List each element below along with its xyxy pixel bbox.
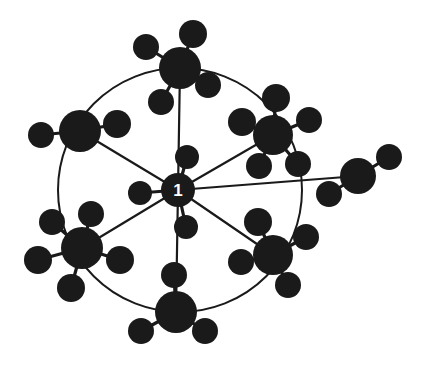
hub-node-hub-upper-right[interactable] <box>253 115 293 155</box>
network-diagram: 1 <box>0 0 426 375</box>
satellite-node-sat-lr-1[interactable] <box>244 208 272 236</box>
satellite-node-sat-lr-3[interactable] <box>228 249 254 275</box>
hub-node-hub-lower-left[interactable] <box>61 227 103 269</box>
satellite-node-sat-lr-2[interactable] <box>293 224 319 250</box>
satellite-node-sat-ll-4[interactable] <box>57 274 85 302</box>
satellite-node-sat-ur-5[interactable] <box>246 153 272 179</box>
satellite-node-center-sat-left[interactable] <box>128 181 152 205</box>
satellite-node-sat-r-1[interactable] <box>376 144 402 170</box>
hub-node-hub-top[interactable] <box>159 47 201 89</box>
satellite-node-sat-ll-2[interactable] <box>39 209 65 235</box>
satellite-node-sat-top-4[interactable] <box>148 89 174 115</box>
center-node-layer: 1 <box>161 173 195 207</box>
satellite-node-sat-ur-1[interactable] <box>262 84 290 112</box>
satellite-node-sat-ur-3[interactable] <box>228 108 256 136</box>
satellite-node-sat-top-1[interactable] <box>133 34 159 60</box>
hub-node-hub-right[interactable] <box>340 158 376 194</box>
satellite-node-sat-r-2[interactable] <box>316 181 342 207</box>
satellite-node-sat-ll-3[interactable] <box>24 246 52 274</box>
satellite-node-sat-ll-1[interactable] <box>78 201 104 227</box>
satellite-node-sat-lr-4[interactable] <box>275 272 301 298</box>
satellite-node-sat-ur-2[interactable] <box>296 107 322 133</box>
satellite-node-center-sat-top[interactable] <box>175 145 199 169</box>
satellite-node-sat-top-2[interactable] <box>179 20 207 48</box>
hub-node-hub-lower-right[interactable] <box>253 235 293 275</box>
satellite-node-sat-ur-4[interactable] <box>285 151 311 177</box>
satellite-node-sat-bot-3[interactable] <box>192 318 218 344</box>
network-graph-svg: 1 <box>0 0 426 375</box>
satellite-node-sat-ul-1[interactable] <box>28 122 54 148</box>
hub-node-hub-bottom[interactable] <box>155 291 197 333</box>
satellite-node-sat-bot-2[interactable] <box>128 318 154 344</box>
satellite-node-sat-ul-2[interactable] <box>103 110 131 138</box>
hub-node-hub-upper-left[interactable] <box>59 110 101 152</box>
satellite-node-sat-bot-1[interactable] <box>161 262 187 288</box>
center-node[interactable] <box>161 173 195 207</box>
satellite-node-center-sat-bottom[interactable] <box>174 215 198 239</box>
satellite-node-sat-ll-5[interactable] <box>106 246 134 274</box>
